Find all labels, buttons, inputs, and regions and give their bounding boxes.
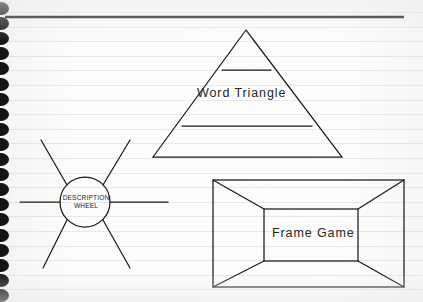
notebook-page: Word Triangle Frame Game DESCRIPTION WHE… [0,0,423,302]
spoke-northwest [41,140,67,185]
connector-bottom-left [213,261,264,287]
spoke-southwest [43,220,67,268]
spoke-northeast [103,140,130,185]
connector-bottom-right [358,261,404,287]
description-wheel-label: DESCRIPTION WHEEL [60,194,112,211]
spoke-southeast [103,220,130,268]
connector-top-right [358,180,404,209]
description-wheel-label-line-1: DESCRIPTION [60,194,112,202]
frame-game-label: Frame Game [272,226,355,240]
description-wheel-label-line-2: WHEEL [60,202,112,210]
word-triangle-label: Word Triangle [197,86,286,100]
connector-top-left [213,180,264,209]
ink-drawing-layer [0,0,423,302]
